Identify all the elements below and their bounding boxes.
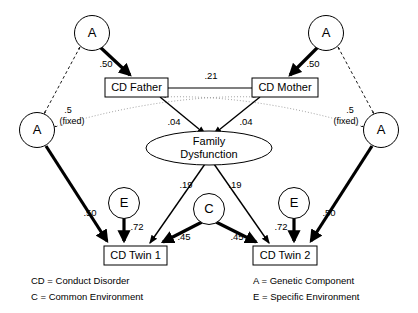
legend-left-line-1: CD = Conduct Disorder bbox=[31, 275, 129, 286]
label-fixed-left-value: .5 bbox=[64, 105, 72, 115]
label-a-father-to-cd-father: .50 bbox=[99, 58, 112, 69]
node-family-dysfunction-label-line2: Dysfunction bbox=[180, 148, 237, 160]
legend-left: CD = Conduct Disorder C = Common Environ… bbox=[31, 275, 144, 302]
label-c-to-cd-twin1: .45 bbox=[177, 231, 190, 242]
node-a-twin1-label: A bbox=[33, 122, 42, 137]
observed-box-group: CD Father CD Mother CD Twin 1 CD Twin 2 bbox=[104, 78, 318, 265]
node-a-mother-label: A bbox=[322, 25, 331, 40]
label-a-twin2-to-cd-twin2: .50 bbox=[322, 207, 335, 218]
node-e-twin1-label: E bbox=[120, 195, 129, 210]
dotted-correlation-group bbox=[54, 97, 364, 127]
label-cd-mother-to-family-dysfunction: .04 bbox=[239, 116, 252, 127]
node-cd-twin2-label: CD Twin 2 bbox=[260, 249, 311, 261]
label-family-dysfunction-to-cd-twin2: .19 bbox=[228, 179, 241, 190]
label-c-to-cd-twin2: .45 bbox=[230, 231, 243, 242]
legend-right: A = Genetic Component E = Specific Envir… bbox=[253, 275, 360, 302]
label-cd-father-cd-mother: .21 bbox=[204, 70, 217, 81]
node-family-dysfunction: Family Dysfunction bbox=[146, 131, 272, 165]
node-cd-mother-label: CD Mother bbox=[258, 81, 312, 93]
node-family-dysfunction-label-line1: Family bbox=[193, 135, 226, 147]
path-diagram-canvas: A A A A E E bbox=[0, 0, 418, 313]
node-cd-twin2: CD Twin 2 bbox=[253, 246, 317, 265]
node-e-twin2-label: E bbox=[290, 195, 299, 210]
node-c-common: C bbox=[194, 194, 225, 225]
path-a-father-to-a-twin1-fixed bbox=[44, 47, 80, 114]
node-a-twin2: A bbox=[364, 113, 399, 148]
label-a-mother-to-cd-mother: .50 bbox=[306, 58, 319, 69]
legend-right-line-1: A = Genetic Component bbox=[253, 275, 354, 286]
legend-right-line-2: E = Specific Environment bbox=[253, 291, 360, 302]
node-cd-twin1: CD Twin 1 bbox=[104, 246, 167, 265]
path-a-twin2-to-cd-twin2 bbox=[311, 146, 372, 241]
label-fixed-right-note: (fixed) bbox=[333, 116, 358, 126]
path-a-twin1-to-cd-twin1 bbox=[46, 146, 107, 241]
path-model-svg: A A A A E E bbox=[0, 0, 418, 313]
label-e-twin1-to-cd-twin1: .72 bbox=[130, 221, 143, 232]
node-a-father-label: A bbox=[88, 25, 97, 40]
node-a-father: A bbox=[75, 16, 110, 51]
legend-left-line-2: C = Common Environment bbox=[31, 291, 144, 302]
label-a-twin1-to-cd-twin1: .50 bbox=[83, 207, 96, 218]
node-a-twin2-label: A bbox=[377, 122, 386, 137]
label-e-twin2-to-cd-twin2: .72 bbox=[274, 221, 287, 232]
label-fixed-left-note: (fixed) bbox=[59, 116, 84, 126]
node-cd-mother: CD Mother bbox=[252, 78, 318, 97]
node-cd-father: CD Father bbox=[105, 78, 168, 97]
node-e-twin1: E bbox=[109, 188, 140, 219]
label-fixed-right-value: .5 bbox=[346, 105, 354, 115]
node-a-twin1: A bbox=[20, 113, 55, 148]
node-c-common-label: C bbox=[204, 201, 213, 216]
node-cd-father-label: CD Father bbox=[111, 81, 162, 93]
node-a-mother: A bbox=[309, 16, 344, 51]
label-cd-father-to-family-dysfunction: .04 bbox=[167, 116, 180, 127]
path-cd-mother-to-family-dysfunction bbox=[214, 97, 260, 134]
label-family-dysfunction-to-cd-twin1: .19 bbox=[179, 179, 192, 190]
node-cd-twin1-label: CD Twin 1 bbox=[110, 249, 161, 261]
node-e-twin2: E bbox=[279, 188, 310, 219]
path-a-mother-to-a-twin2-fixed bbox=[338, 47, 374, 114]
